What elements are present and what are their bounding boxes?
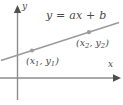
x-axis-arrowhead: [113, 74, 121, 82]
point-1-label: (x1, y1): [26, 56, 59, 67]
point-1-close-paren: ): [55, 55, 59, 66]
y-axis-label: y: [22, 2, 27, 11]
y-axis-arrowhead: [14, 5, 21, 13]
point-marker-2: [87, 30, 91, 34]
x-axis-label: x: [108, 60, 113, 69]
linear-function-figure: y = ax + b (x2, y2) (x1, y1) y x: [0, 0, 123, 105]
point-2-label: (x2, y2): [76, 38, 109, 49]
point-marker-1: [30, 48, 34, 52]
equation-label: y = ax + b: [46, 10, 106, 21]
point-2-close-paren: ): [105, 37, 109, 48]
y-axis: [14, 5, 21, 100]
